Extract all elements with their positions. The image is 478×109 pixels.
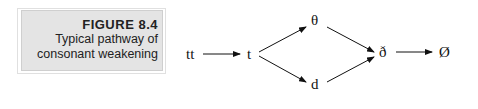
node-zero: Ø — [439, 45, 450, 60]
arrow-d-eth — [327, 57, 374, 82]
arrow-t-theta — [259, 27, 306, 52]
node-tt: tt — [186, 47, 194, 62]
node-eth: ð — [379, 45, 387, 60]
node-theta: θ — [311, 13, 318, 28]
node-t: t — [247, 47, 251, 62]
arrow-theta-eth — [327, 27, 374, 52]
arrow-t-d — [259, 56, 306, 82]
node-d: d — [311, 77, 319, 92]
diagram-arrows — [0, 0, 478, 109]
